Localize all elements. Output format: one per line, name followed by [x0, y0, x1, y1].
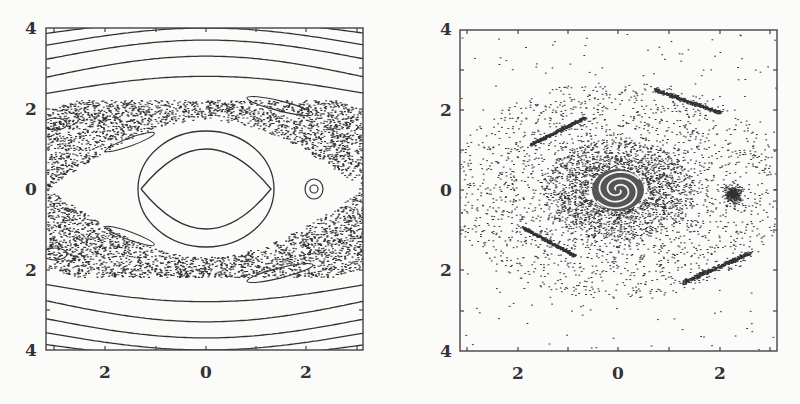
- right-plot-canvas: [0, 0, 800, 404]
- y-tick-label: 2: [440, 100, 452, 120]
- y-tick-label: 4: [440, 341, 452, 361]
- y-tick-label: 2: [440, 260, 452, 280]
- right-plot-panel: 4 2 0 2 4 2 0 2: [0, 0, 800, 404]
- x-tick-label: 0: [612, 363, 624, 383]
- x-tick-label: 2: [512, 363, 524, 383]
- y-tick-label: 4: [440, 19, 452, 39]
- y-tick-label: 0: [440, 180, 452, 200]
- x-tick-label: 2: [714, 363, 726, 383]
